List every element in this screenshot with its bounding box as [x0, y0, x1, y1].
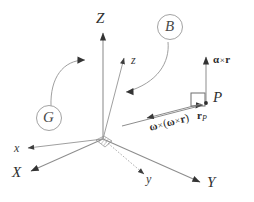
rP-subscript: P: [202, 114, 207, 123]
r-symbol: r: [225, 53, 230, 65]
leader-B: [126, 42, 168, 95]
axis-label-z: z: [131, 54, 136, 66]
leader-G: [51, 56, 85, 106]
figure-canvas: Z z x X y Y G B P α×r rP ω×(ω×r): [0, 0, 254, 202]
frame-marker-G-label: G: [43, 110, 54, 125]
axis-label-Z: Z: [96, 11, 104, 26]
point-P-label: P: [213, 90, 222, 105]
frame-marker-B-label: B: [165, 19, 174, 34]
point-P-dot: [204, 101, 208, 105]
axis-Y: [103, 139, 200, 182]
axis-label-x: x: [14, 142, 19, 154]
axis-y: [103, 139, 144, 174]
vector-label-alpha-cross-r: α×r: [213, 54, 230, 65]
axis-label-Y: Y: [207, 175, 215, 190]
axis-X: [31, 139, 103, 171]
vector-label-rP: rP: [197, 110, 207, 123]
axis-z: [103, 58, 124, 139]
axis-label-y: y: [146, 173, 151, 185]
axis-label-X: X: [12, 165, 21, 180]
origin-marker: [96, 136, 112, 147]
